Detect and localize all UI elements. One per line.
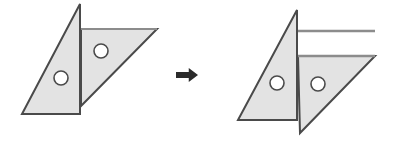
figure-container: [0, 0, 396, 141]
before-hole-left: [54, 71, 68, 85]
after-hole-right: [311, 77, 325, 91]
transformation-figure: [0, 0, 396, 141]
after-hole-left: [270, 76, 284, 90]
before-hole-right: [94, 44, 108, 58]
